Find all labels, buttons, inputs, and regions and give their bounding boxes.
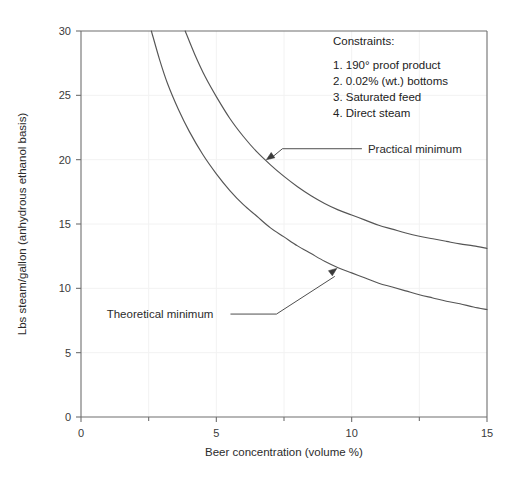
x-tick-label: 10 — [346, 427, 358, 439]
y-tick-label: 15 — [59, 218, 71, 230]
y-tick-label: 5 — [65, 347, 71, 359]
y-axis-title: Lbs steam/gallon (anhydrous ethanol basi… — [16, 113, 28, 336]
x-axis-title: Beer concentration (volume %) — [205, 446, 363, 458]
y-tick-label: 20 — [59, 154, 71, 166]
y-tick-label: 0 — [65, 411, 71, 423]
constraints-heading: Constraints: — [333, 35, 394, 47]
x-tick-label: 5 — [213, 427, 219, 439]
steam-vs-beer-concentration-chart: 051015202530051015 Practical minimumTheo… — [0, 0, 514, 489]
x-tick-label: 15 — [481, 427, 493, 439]
constraint-item-3: 3. Saturated feed — [333, 91, 421, 103]
annotation-label-theoretical-minimum: Theoretical minimum — [107, 308, 214, 320]
chart-figure: 051015202530051015 Practical minimumTheo… — [0, 0, 514, 489]
constraint-item-1: 1. 190° proof product — [333, 59, 441, 71]
y-tick-label: 10 — [59, 282, 71, 294]
constraint-item-2: 2. 0.02% (wt.) bottoms — [333, 75, 448, 87]
annotation-label-practical-minimum: Practical minimum — [368, 143, 462, 155]
x-tick-label: 0 — [78, 427, 84, 439]
y-tick-label: 25 — [59, 89, 71, 101]
constraint-item-4: 4. Direct steam — [333, 107, 410, 119]
chart-background — [0, 0, 514, 489]
y-tick-label: 30 — [59, 25, 71, 37]
